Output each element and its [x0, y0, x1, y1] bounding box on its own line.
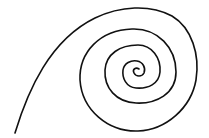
spiral-drawing [0, 0, 209, 138]
spiral-line [15, 8, 197, 133]
spiral-figure [0, 0, 209, 138]
